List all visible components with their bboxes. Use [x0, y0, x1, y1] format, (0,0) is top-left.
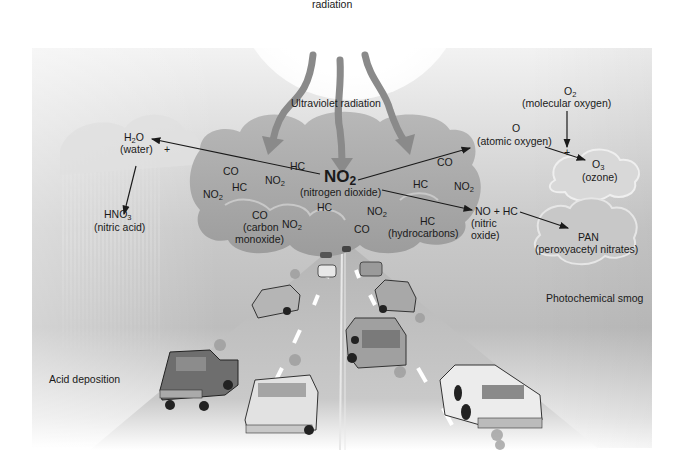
nitric-oxide-name-line2: oxide): [471, 229, 500, 241]
pollutant-no2: NO2: [265, 174, 285, 186]
carbon-monoxide-line2: monoxide): [235, 233, 284, 245]
pollutant-hc: HC: [317, 201, 332, 213]
pollutant-co: CO: [354, 223, 370, 235]
nitric-oxide-formula: NO + HC: [475, 205, 518, 217]
water-plus-sign: +: [164, 143, 170, 155]
water-formula: H2O: [124, 131, 144, 143]
suv-center: [346, 318, 406, 368]
atomic-oxygen-name: (atomic oxygen): [477, 135, 552, 147]
pollutant-co: CO: [437, 156, 453, 168]
photochemical-smog-caption: Photochemical smog: [546, 292, 643, 304]
nitric-acid-formula: HNO3: [104, 208, 132, 220]
acid-deposition-caption: Acid deposition: [49, 373, 120, 385]
atomic-oxygen-formula: O: [512, 122, 520, 134]
hydrocarbons-label: (hydrocarbons): [388, 227, 459, 239]
uv-radiation-label: Ultraviolet radiation: [291, 97, 381, 109]
pan-name: (peroxyacetyl nitrates): [535, 243, 638, 255]
ozone-name: (ozone): [582, 171, 618, 183]
pollutant-hc: HC: [232, 181, 247, 193]
pollutant-hc: HC: [413, 178, 428, 190]
car-white-front: [245, 375, 318, 435]
pollutant-no2: NO2: [367, 205, 387, 217]
no2-formula: NO2: [324, 168, 356, 186]
ozone-formula: O3: [592, 158, 604, 170]
pollutant-no2: NO2: [454, 180, 474, 192]
sun-radiation-label: radiation: [312, 0, 352, 10]
molecular-oxygen-name: (molecular oxygen): [522, 97, 611, 109]
nitric-acid-name: (nitric acid): [94, 221, 145, 233]
pollutant-no2: NO2: [282, 218, 302, 230]
illustration-layer: [0, 0, 677, 470]
no2-name: (nitrogen dioxide): [300, 186, 381, 198]
pollutant-hc: HC: [290, 160, 305, 172]
pan-formula: PAN: [578, 231, 599, 243]
molecular-oxygen-formula: O2: [564, 85, 576, 97]
pollutant-co: CO: [252, 209, 268, 221]
oxygen-plus-sign: +: [564, 146, 570, 158]
pollutant-co: CO: [223, 165, 239, 177]
nitric-oxide-name-line1: (nitric: [471, 217, 497, 229]
pollutant-hc: HC: [420, 215, 435, 227]
carbon-monoxide-line1: (carbon: [243, 221, 279, 233]
water-name: (water): [120, 143, 153, 155]
pollutant-no2: NO2: [203, 188, 223, 200]
pickup-right-far: [375, 280, 416, 313]
